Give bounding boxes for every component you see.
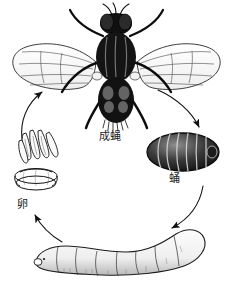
arrow-larva-to-egg [35,215,62,242]
arrow-pupa-to-larva [172,186,203,228]
fly-antennae [103,3,129,15]
housefly-life-cycle-diagram: 成蝇 蛹 卵 [0,0,233,285]
fly-thorax [92,32,140,82]
egg-cluster-icon [15,130,58,190]
pupa-barrel-icon [147,133,219,171]
stage-label-egg: 卵 [17,199,28,210]
fly-abdomen [98,77,134,131]
arrow-adult-to-pupa [158,90,199,127]
egg-bundle-upper [19,130,58,163]
fly-head [100,3,132,36]
egg-coil-lower [15,169,58,191]
larva-maggot-icon [34,230,205,276]
stage-label-pupa: 蛹 [169,173,180,184]
stage-label-adult: 成蝇 [99,131,121,142]
fly-wing-left [13,44,96,90]
fly-wing-right [137,44,220,90]
